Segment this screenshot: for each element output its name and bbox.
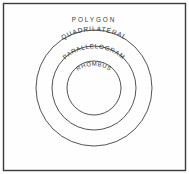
euler-diagram-canvas: POLYGON QUADRILATERAL PARALLELOGRAM RHOM…	[0, 0, 189, 174]
set-label-parallelogram: PARALLELOGRAM	[61, 42, 127, 60]
set-circle-rhombus	[67, 61, 121, 115]
set-label-quadrilateral: QUADRILATERAL	[60, 25, 128, 42]
set-label-polygon: POLYGON	[72, 16, 116, 23]
set-label-rhombus: RHOMBUS	[75, 61, 112, 72]
diagram-frame: POLYGON QUADRILATERAL PARALLELOGRAM RHOM…	[0, 0, 189, 174]
